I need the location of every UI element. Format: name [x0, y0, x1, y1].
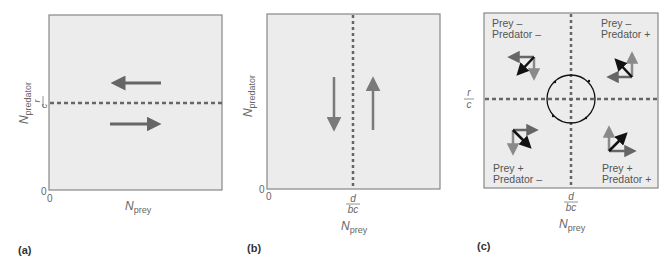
panel-b-y-label-sub: predator [247, 75, 257, 109]
panel-c-tag: (c) [477, 240, 491, 252]
panel-c-y-isocline-label-num: r [467, 87, 471, 98]
panel-a-origin-x: 0 [47, 193, 53, 204]
panel-b-x-label-sub: prey [350, 225, 368, 235]
predator-prey-isocline-figure: r c Npredator 0 0 Nprey (a) Npredator 0 … [0, 0, 666, 267]
panel-b-y-label-main: N [241, 108, 255, 117]
panel-c-quad-br-line2: Predator + [602, 173, 651, 185]
panel-c-quad-tl-line2: Predator – [492, 28, 541, 40]
panel-b-origin-x: 0 [266, 191, 272, 202]
panel-b-origin-y: 0 [259, 184, 265, 195]
panel-a-x-label-sub: prey [134, 205, 152, 215]
panel-a-tag: (a) [18, 244, 32, 256]
panel-a-isocline-label-num: r [32, 99, 42, 103]
panel-a-y-axis-label: Npredator [17, 82, 33, 124]
svg-text:Npredator: Npredator [17, 82, 33, 124]
panel-b-isocline-label-den: bc [348, 204, 359, 215]
panel-c-y-isocline-label-den: c [467, 99, 472, 110]
panel-a-x-label-main: N [125, 199, 134, 213]
panel-c-x-label-main: N [559, 217, 568, 231]
panel-a-isocline-label-den: c [39, 103, 49, 108]
svg-text:Npredator: Npredator [241, 75, 257, 117]
panel-c-x-isocline-label-num: d [568, 191, 574, 202]
panel-a-x-axis-label: Nprey [125, 199, 152, 215]
panel-a-y-label-sub: predator [23, 82, 33, 116]
panel-c: Prey – Predator – Prey – Predator + Prey… [464, 13, 658, 252]
panel-b-x-label-main: N [341, 219, 350, 233]
panel-a: r c Npredator 0 0 Nprey (a) [17, 15, 222, 256]
panel-c-x-label-sub: prey [568, 223, 586, 233]
panel-b-x-axis-label: Nprey [341, 219, 368, 235]
panel-b: Npredator 0 0 d bc Nprey (b) [241, 14, 440, 254]
panel-c-x-isocline-label-den: bc [566, 202, 577, 213]
panel-b-y-axis-label: Npredator [241, 75, 257, 117]
panel-c-quad-bl-line2: Predator – [493, 173, 542, 185]
panel-a-y-label-main: N [17, 115, 31, 124]
panel-b-isocline-label-num: d [350, 193, 356, 204]
panel-c-quad-tr-line2: Predator + [601, 28, 650, 40]
panel-b-tag: (b) [247, 242, 261, 254]
panel-c-x-axis-label: Nprey [559, 217, 586, 233]
